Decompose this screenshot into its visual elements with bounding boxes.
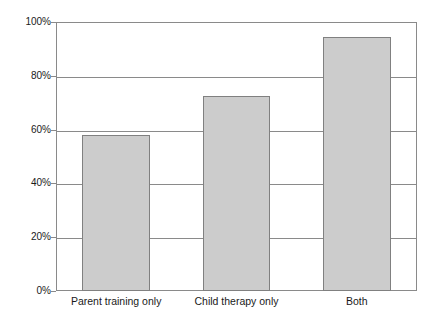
x-axis-tick-label: Both: [346, 294, 368, 308]
bar-both[interactable]: [323, 37, 391, 291]
x-axis-tick-label: Parent training only: [71, 294, 161, 308]
y-axis-tick: [51, 291, 56, 292]
x-axis: Parent training only Child therapy only …: [56, 294, 417, 314]
y-axis-tick-label: 20%: [3, 232, 51, 242]
bar-child-therapy-only[interactable]: [203, 96, 271, 291]
x-axis-tick-label: Child therapy only: [194, 294, 278, 308]
bar-chart: 100% 80% 60% 40% 20% 0% Parent training …: [0, 0, 438, 326]
y-axis: 100% 80% 60% 40% 20% 0%: [0, 0, 51, 326]
y-axis-tick-label: 100%: [3, 17, 51, 27]
y-axis-tick-label: 0%: [3, 286, 51, 296]
bar-parent-training-only[interactable]: [82, 135, 150, 291]
y-axis-tick-label: 60%: [3, 125, 51, 135]
y-axis-tick-label: 40%: [3, 178, 51, 188]
y-axis-tick-label: 80%: [3, 71, 51, 81]
